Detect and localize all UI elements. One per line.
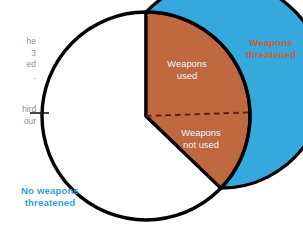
body-text-fragment: he 3 ed . [0,36,36,82]
legend-weapons-threatened: Weapons threatened [240,37,302,62]
pie-label-weapons-not-used: Weapons not used [168,127,234,150]
pie-label-weapons-used: Weapons used [157,58,217,81]
callout-text-fragment: hird our [0,104,36,127]
legend-no-weapons-threatened: No weapons threatened [2,185,98,210]
pie-chart-figure: he 3 ed . hird our Weapons used Weapons … [0,0,303,231]
